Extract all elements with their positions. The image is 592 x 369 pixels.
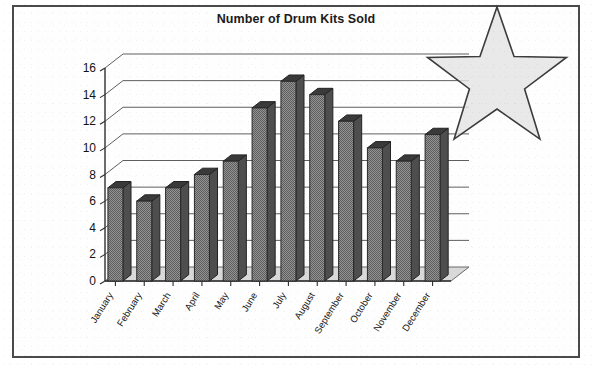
x-tick-label: November	[371, 290, 404, 333]
y-tick	[100, 228, 105, 231]
y-tick	[100, 121, 105, 124]
x-tick-label: January	[88, 290, 115, 325]
x-tick-label: May	[212, 290, 231, 311]
y-tick	[100, 68, 105, 71]
bar-chart-plot-area: 0246810121416JanuaryFebruaryMarchAprilMa…	[0, 0, 592, 369]
y-tick-label: 6	[89, 194, 96, 208]
bar-front-face	[339, 121, 354, 281]
bar-front-face	[425, 135, 440, 281]
bar-february	[137, 195, 160, 281]
y-tick-label: 0	[89, 274, 96, 288]
x-tick-label: March	[149, 290, 172, 318]
bar-side-face	[238, 155, 246, 281]
bar-front-face	[310, 95, 325, 281]
y-tick-label: 4	[89, 221, 96, 235]
bar-may	[223, 155, 246, 281]
y-tick	[100, 281, 105, 284]
bar-side-face	[209, 168, 217, 281]
bar-side-face	[325, 88, 333, 281]
x-tick-label: June	[239, 290, 259, 313]
bar-side-face	[123, 182, 131, 281]
bar-front-face	[367, 148, 382, 281]
y-tick	[100, 201, 105, 204]
star-overlay-shape	[428, 7, 567, 139]
bar-december	[425, 128, 448, 281]
bar-front-face	[281, 81, 296, 281]
bar-side-face	[267, 102, 275, 281]
bar-side-face	[382, 142, 390, 281]
bar-april	[194, 168, 217, 281]
bar-january	[108, 182, 131, 281]
bar-front-face	[108, 188, 123, 281]
bar-side-face	[440, 128, 448, 281]
bar-june	[252, 102, 275, 281]
bar-side-face	[152, 195, 160, 281]
y-tick-label: 10	[83, 141, 97, 155]
x-tick-label: February	[114, 290, 144, 328]
y-tick-label: 14	[83, 88, 97, 102]
bar-side-face	[411, 155, 419, 281]
y-tick-label: 8	[89, 168, 96, 182]
bar-front-face	[166, 188, 181, 281]
y-tick	[100, 148, 105, 151]
bar-side-face	[181, 182, 189, 281]
bar-side-face	[296, 75, 304, 281]
bar-front-face	[137, 201, 152, 281]
gridline-connector	[105, 107, 123, 121]
bar-october	[367, 142, 390, 281]
y-tick-label: 16	[83, 61, 97, 75]
bar-front-face	[223, 161, 238, 281]
bar-front-face	[396, 161, 411, 281]
x-tick-label: April	[182, 290, 201, 312]
y-tick	[100, 254, 105, 257]
x-tick-label: December	[400, 290, 433, 333]
bar-march	[166, 182, 189, 281]
bar-july	[281, 75, 304, 281]
gridline-connector	[105, 134, 123, 148]
gridline-connector	[105, 54, 123, 68]
gridline-connector	[105, 161, 123, 175]
bar-front-face	[194, 175, 209, 282]
bar-november	[396, 155, 419, 281]
y-tick-label: 12	[83, 114, 97, 128]
y-tick-label: 2	[89, 247, 96, 261]
y-tick	[100, 175, 105, 178]
x-tick-label: July	[270, 290, 288, 310]
bar-side-face	[354, 115, 362, 281]
bar-front-face	[252, 108, 267, 281]
y-tick	[100, 95, 105, 98]
x-tick-label: September	[312, 290, 346, 335]
x-tick-label: August	[292, 290, 317, 321]
bar-august	[310, 88, 333, 281]
gridline-connector	[105, 81, 123, 95]
x-tick-label: October	[347, 290, 374, 324]
bar-september	[339, 115, 362, 281]
